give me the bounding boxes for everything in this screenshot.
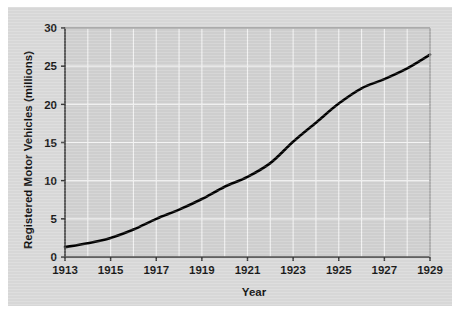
- y-tick-label: 5: [51, 213, 58, 225]
- x-tick-label: 1923: [280, 264, 306, 276]
- x-axis-title: Year: [242, 286, 267, 298]
- y-tick-label: 20: [44, 99, 57, 111]
- x-tick-label: 1913: [52, 264, 78, 276]
- y-tick-label: 0: [51, 251, 57, 263]
- y-tick-label: 25: [44, 60, 57, 72]
- y-tick-label: 15: [44, 137, 57, 149]
- x-tick-label: 1927: [372, 264, 398, 276]
- line-chart: 191319151917191919211923192519271929 051…: [8, 7, 452, 306]
- chart-figure: 191319151917191919211923192519271929 051…: [8, 7, 452, 306]
- x-tick-label: 1917: [143, 264, 169, 276]
- x-tick-labels: 191319151917191919211923192519271929: [52, 264, 443, 276]
- x-tick-label: 1929: [417, 264, 443, 276]
- x-tick-label: 1921: [235, 264, 261, 276]
- y-axis-title: Registered Motor Vehicles (millions): [22, 51, 34, 249]
- x-tick-label: 1925: [326, 264, 352, 276]
- y-tick-label: 10: [44, 175, 57, 187]
- x-tick-label: 1919: [189, 264, 215, 276]
- x-tick-label: 1915: [98, 264, 124, 276]
- y-tick-label: 30: [44, 22, 57, 34]
- y-tick-labels: 051015202530: [44, 22, 57, 263]
